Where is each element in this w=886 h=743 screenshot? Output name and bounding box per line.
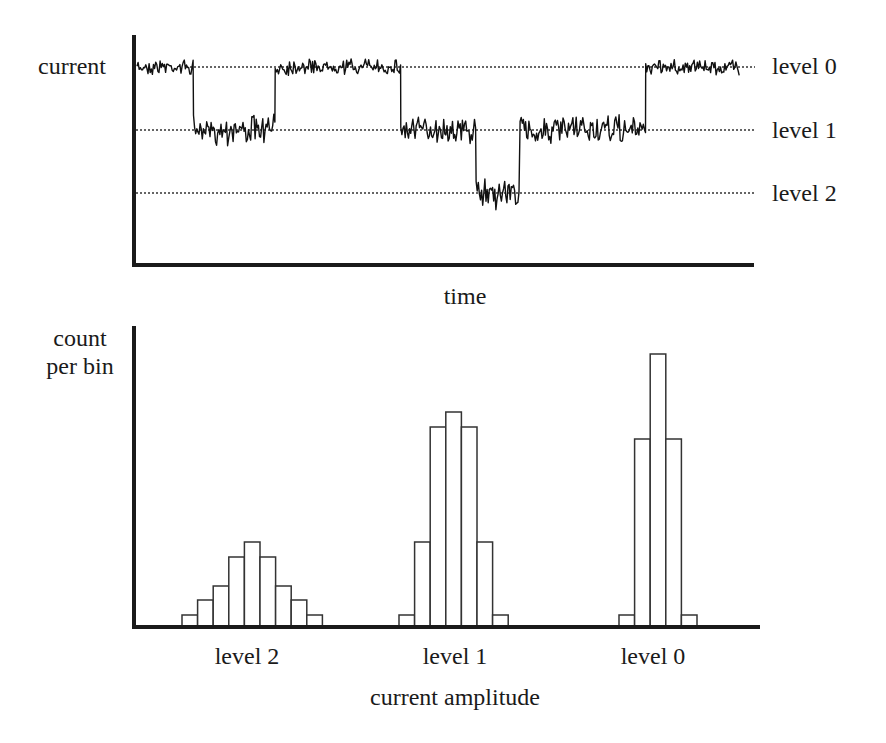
level-0-label: level 0	[772, 53, 837, 79]
top-y-axis-label: current	[38, 53, 106, 79]
histogram-bar	[415, 542, 431, 627]
category-label-level-1: level 1	[400, 643, 510, 669]
histogram-bar	[635, 439, 651, 627]
current-trace-plot	[0, 0, 886, 743]
histogram-bar	[477, 542, 493, 627]
bottom-y-axis-label-line1: count	[30, 325, 130, 351]
histogram-bar	[198, 600, 214, 627]
histogram-bar	[666, 439, 682, 627]
histogram-bar	[244, 542, 260, 627]
histogram-bar	[260, 557, 276, 627]
category-label-level-2: level 2	[192, 643, 302, 669]
level-2-label: level 2	[772, 180, 837, 206]
level-1-label: level 1	[772, 117, 837, 143]
bottom-y-axis-label-line2: per bin	[30, 353, 130, 379]
histogram-bar	[213, 586, 229, 627]
amplitude-histogram	[182, 354, 697, 627]
histogram-bar	[461, 427, 477, 627]
bottom-x-axis-label: current amplitude	[330, 684, 580, 710]
histogram-bar	[291, 600, 307, 627]
histogram-bar	[446, 412, 462, 627]
current-trace-line	[137, 59, 739, 210]
histogram-bar	[430, 427, 446, 627]
top-x-axis-label: time	[400, 283, 530, 309]
level-guide-lines	[136, 67, 755, 193]
histogram-bar	[650, 354, 666, 627]
histogram-bar	[229, 557, 245, 627]
histogram-bar	[276, 586, 292, 627]
category-label-level-0: level 0	[598, 643, 708, 669]
